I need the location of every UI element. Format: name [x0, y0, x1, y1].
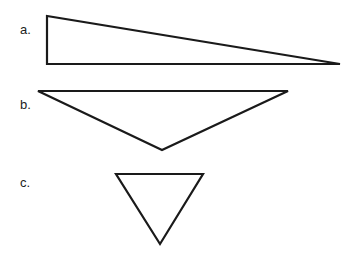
figure-a: a.	[20, 16, 340, 64]
triangle-c	[116, 174, 203, 244]
figure-c: c.	[20, 174, 203, 244]
label-b: b.	[20, 97, 31, 112]
triangle-a	[47, 16, 340, 64]
triangle-b	[38, 91, 288, 150]
label-a: a.	[20, 22, 31, 37]
triangles-diagram: a. b. c.	[0, 0, 362, 253]
label-c: c.	[20, 175, 30, 190]
figure-b: b.	[20, 91, 288, 150]
